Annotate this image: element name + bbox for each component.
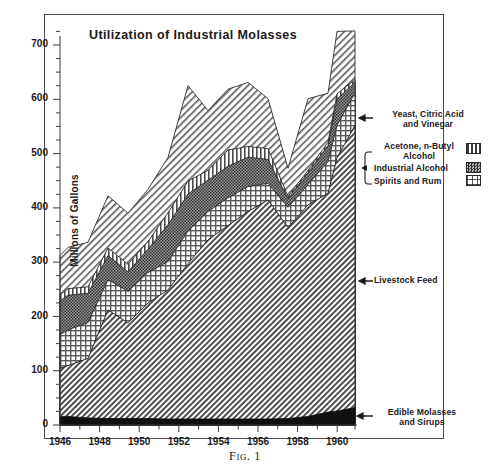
arrow-livestock: [359, 278, 373, 284]
arrow-edible: [357, 413, 373, 419]
swatch-industrial-alcohol-checker: [466, 162, 481, 173]
figure-caption: FIG. 1: [0, 449, 490, 464]
y-axis-title: Millions of Gallons: [69, 141, 80, 301]
y-tick-300: 300: [18, 255, 48, 266]
legend-edible-line2: and Sirups: [374, 418, 470, 428]
legend-acetone: Acetone, n-Butyl Alcohol: [374, 142, 464, 161]
chart-title: Utilization of Industrial Molasses: [78, 28, 308, 42]
x-tick-1952: 1952: [159, 436, 199, 447]
x-tick-1948: 1948: [80, 436, 120, 447]
x-tick-1946: 1946: [40, 436, 80, 447]
x-tick-1950: 1950: [119, 436, 159, 447]
figure-container: Millions of Gallons Utilization of Indus…: [0, 0, 490, 473]
y-tick-700: 700: [18, 38, 48, 49]
y-tick-400: 400: [18, 201, 48, 212]
legend-yeast: Yeast, Citric Acid and Vinegar: [374, 110, 482, 129]
figure-caption-num: . 1: [247, 449, 261, 463]
legend-yeast-line2: and Vinegar: [374, 120, 482, 130]
x-tick-1956: 1956: [238, 436, 278, 447]
arrow-yeast: [359, 115, 373, 121]
swatch-spirits-rum-grid: [466, 175, 481, 186]
x-tick-1958: 1958: [278, 436, 318, 447]
y-tick-0: 0: [18, 418, 48, 429]
callout-arrows: [357, 115, 373, 419]
legend-acetone-line2: Alcohol: [374, 152, 464, 162]
legend-livestock-feed: Livestock Feed: [374, 276, 474, 286]
legend-spirits-rum: Spirits and Rum: [374, 177, 466, 187]
y-tick-200: 200: [18, 310, 48, 321]
figure-caption-ig: IG: [236, 452, 247, 462]
swatch-acetone-vertical-lines: [466, 143, 481, 154]
y-axis: [53, 31, 60, 425]
y-tick-600: 600: [18, 92, 48, 103]
x-axis: [60, 425, 357, 432]
y-tick-100: 100: [18, 364, 48, 375]
x-tick-1954: 1954: [198, 436, 238, 447]
x-tick-1960: 1960: [317, 436, 357, 447]
legend-industrial-alcohol: Industrial Alcohol: [374, 164, 466, 174]
legend-edible-molasses: Edible Molasses and Sirups: [374, 408, 470, 427]
y-tick-500: 500: [18, 147, 48, 158]
area-series-group: [60, 31, 355, 425]
